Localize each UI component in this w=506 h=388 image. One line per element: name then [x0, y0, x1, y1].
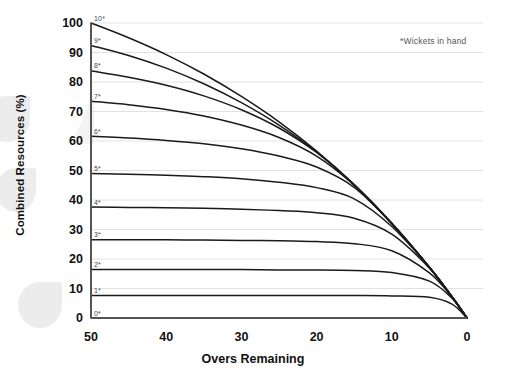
y-tick-50: 50 [45, 164, 83, 178]
curve-label-4w: 4* [94, 199, 101, 206]
x-tick-30: 30 [221, 330, 261, 344]
curve-4w [91, 207, 467, 318]
x-tick-20: 20 [297, 330, 337, 344]
curve-6w [91, 136, 467, 318]
curve-label-0w: 0* [94, 310, 101, 317]
y-tick-40: 40 [45, 193, 83, 207]
x-tick-40: 40 [146, 330, 186, 344]
curve-label-2w: 2* [94, 261, 101, 268]
y-tick-20: 20 [45, 252, 83, 266]
wickets-annotation: *Wickets in hand [400, 36, 467, 46]
y-axis-title: Combined Resources (%) [8, 0, 32, 330]
y-tick-90: 90 [45, 46, 83, 60]
curve-label-10w: 10* [94, 15, 105, 22]
x-axis-title: Overs Remaining [0, 352, 506, 366]
curve-7w [91, 101, 467, 318]
curve-label-7w: 7* [94, 93, 101, 100]
curve-label-8w: 8* [94, 62, 101, 69]
y-axis-title-text: Combined Resources (%) [14, 94, 26, 236]
y-tick-100: 100 [45, 16, 83, 30]
plot-area: 0102030405060708090100 50403020100 10*9*… [0, 0, 506, 388]
x-tick-10: 10 [372, 330, 412, 344]
curve-label-1w: 1* [94, 287, 101, 294]
curve-8w [91, 71, 467, 318]
curve-2w [91, 270, 467, 318]
x-tick-0: 0 [447, 330, 487, 344]
curve-1w [91, 296, 467, 318]
y-tick-70: 70 [45, 105, 83, 119]
curve-3w [91, 240, 467, 318]
resource-chart-figure: 0102030405060708090100 50403020100 10*9*… [0, 0, 506, 388]
curve-label-9w: 9* [94, 37, 101, 44]
x-tick-50: 50 [71, 330, 111, 344]
y-tick-60: 60 [45, 134, 83, 148]
y-tick-30: 30 [45, 223, 83, 237]
curve-label-6w: 6* [94, 128, 101, 135]
curve-label-3w: 3* [94, 231, 101, 238]
curve-label-5w: 5* [94, 165, 101, 172]
y-tick-10: 10 [45, 282, 83, 296]
y-tick-0: 0 [45, 311, 83, 325]
y-tick-80: 80 [45, 75, 83, 89]
